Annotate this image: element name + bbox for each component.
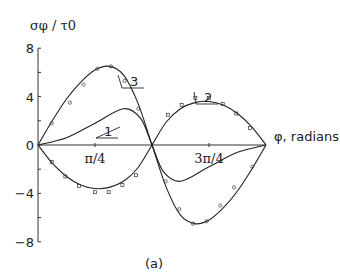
marker-circle — [219, 204, 222, 207]
marker-circle — [164, 180, 167, 183]
x-tick-label: π/4 — [84, 151, 105, 166]
marker-circle — [123, 79, 126, 82]
y-tick-label: 0 — [26, 138, 34, 153]
y-tick-label: −8 — [15, 235, 34, 250]
y-tick-label: 8 — [26, 41, 34, 56]
y-axis-label: σφ / τ0 — [30, 18, 76, 33]
marker-square — [166, 113, 169, 116]
curve-label-1: 1 — [104, 124, 112, 139]
marker-square — [107, 191, 110, 194]
marker-circle — [232, 186, 235, 189]
curve-label-3: 3 — [130, 74, 138, 89]
axes: 840−4−8π/43π/4 — [15, 41, 266, 250]
y-tick-label: −4 — [15, 186, 34, 201]
marker-circle — [137, 107, 140, 110]
marker-square — [94, 191, 97, 194]
y-tick-label: 4 — [26, 90, 34, 105]
x-axis-label: φ, radians — [274, 129, 339, 144]
marker-square — [135, 174, 138, 177]
marker-circle — [68, 101, 71, 104]
chart: 840−4−8π/43π/4 123 σφ / τ0 φ, radians (a… — [0, 0, 340, 278]
caption: (a) — [145, 256, 163, 271]
marker-circle — [82, 83, 85, 86]
marker-square — [121, 183, 124, 186]
x-tick-label: 3π/4 — [194, 151, 223, 166]
marker-square — [249, 127, 252, 130]
curve-label-2: 2 — [204, 90, 212, 105]
marker-square — [180, 104, 183, 107]
marker-circle — [178, 208, 181, 211]
